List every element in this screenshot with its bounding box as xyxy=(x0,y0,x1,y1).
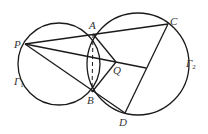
label-gamma-2: Γ2 xyxy=(185,57,196,71)
line-CD xyxy=(125,24,168,113)
label-B: B xyxy=(87,94,94,106)
label-D: D xyxy=(118,116,127,128)
label-P: P xyxy=(13,38,21,50)
label-A: A xyxy=(88,19,96,31)
geometry-diagram: P A C Q B D Γ1 Γ2 xyxy=(0,0,208,134)
line-PC xyxy=(25,24,168,44)
label-Q: Q xyxy=(113,64,121,76)
label-C: C xyxy=(170,15,178,27)
label-gamma-1: Γ1 xyxy=(13,75,24,89)
